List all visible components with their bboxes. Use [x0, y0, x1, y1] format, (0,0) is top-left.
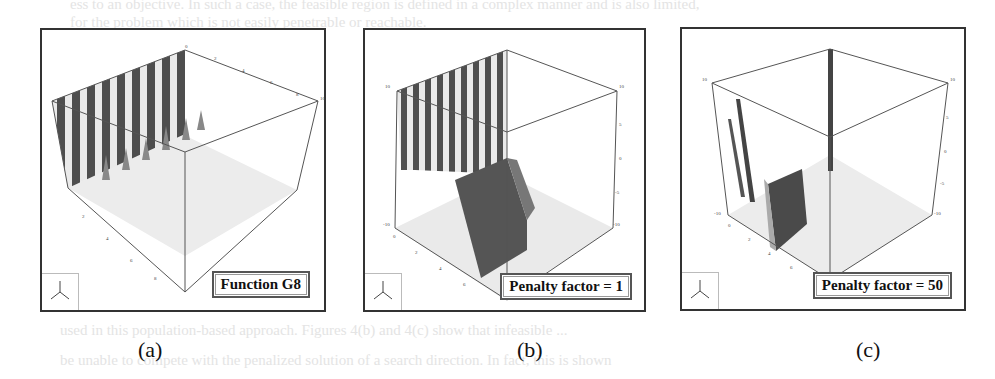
- caption-c: (c): [856, 337, 880, 363]
- svg-text:-10: -10: [934, 211, 941, 216]
- svg-text:6: 6: [130, 258, 133, 263]
- svg-text:0: 0: [185, 44, 188, 49]
- svg-text:2: 2: [748, 237, 751, 242]
- svg-text:10: 10: [702, 77, 708, 82]
- svg-text:0: 0: [619, 156, 622, 161]
- surface-plot-b: 1010 50-5-10 -100246: [365, 30, 648, 314]
- svg-text:0: 0: [944, 149, 947, 154]
- svg-text:6: 6: [790, 265, 793, 270]
- plot-panel-c: 1010 50-5-10 -100246 Penalty factor = 50: [680, 27, 966, 311]
- legend-c: Penalty factor = 50: [813, 272, 952, 299]
- svg-text:0: 0: [728, 223, 731, 228]
- plot-panel-b: 1010 50-5-10 -100246 Penalty factor = 1: [363, 28, 646, 312]
- svg-text:5: 5: [946, 115, 949, 120]
- svg-text:2: 2: [82, 214, 85, 219]
- svg-text:6: 6: [463, 282, 466, 287]
- svg-text:-10: -10: [714, 211, 721, 216]
- svg-text:10: 10: [385, 84, 391, 89]
- caption-a: (a): [138, 337, 162, 363]
- axes-orientation-icon-a: [42, 273, 79, 310]
- bleed-text-line-1: ess to an objective. In such a case, the…: [70, 0, 995, 13]
- svg-text:10: 10: [619, 84, 625, 89]
- svg-text:8: 8: [296, 92, 299, 97]
- svg-text:2: 2: [415, 250, 418, 255]
- svg-text:4: 4: [439, 266, 442, 271]
- svg-text:4: 4: [242, 68, 245, 73]
- svg-text:5: 5: [619, 122, 622, 127]
- svg-text:8: 8: [154, 276, 157, 281]
- svg-text:10: 10: [950, 77, 956, 82]
- svg-text:6: 6: [270, 80, 273, 85]
- axes-orientation-icon-c: [682, 272, 719, 309]
- svg-text:-10: -10: [383, 222, 390, 227]
- legend-a: Function G8: [212, 271, 310, 298]
- legend-b: Penalty factor = 1: [500, 273, 632, 300]
- plot-panel-a: 0246810 2468 Function G8: [40, 28, 326, 312]
- svg-text:-5: -5: [615, 190, 620, 195]
- svg-text:0: 0: [393, 234, 396, 239]
- svg-text:10: 10: [320, 96, 326, 101]
- svg-text:-10: -10: [613, 222, 620, 227]
- svg-text:-5: -5: [940, 181, 945, 186]
- axes-orientation-icon-b: [365, 273, 402, 310]
- surface-plot-c: 1010 50-5-10 -100246: [682, 29, 968, 313]
- svg-text:4: 4: [768, 251, 771, 256]
- svg-text:2: 2: [214, 56, 217, 61]
- svg-text:4: 4: [106, 236, 109, 241]
- caption-b: (b): [517, 337, 543, 363]
